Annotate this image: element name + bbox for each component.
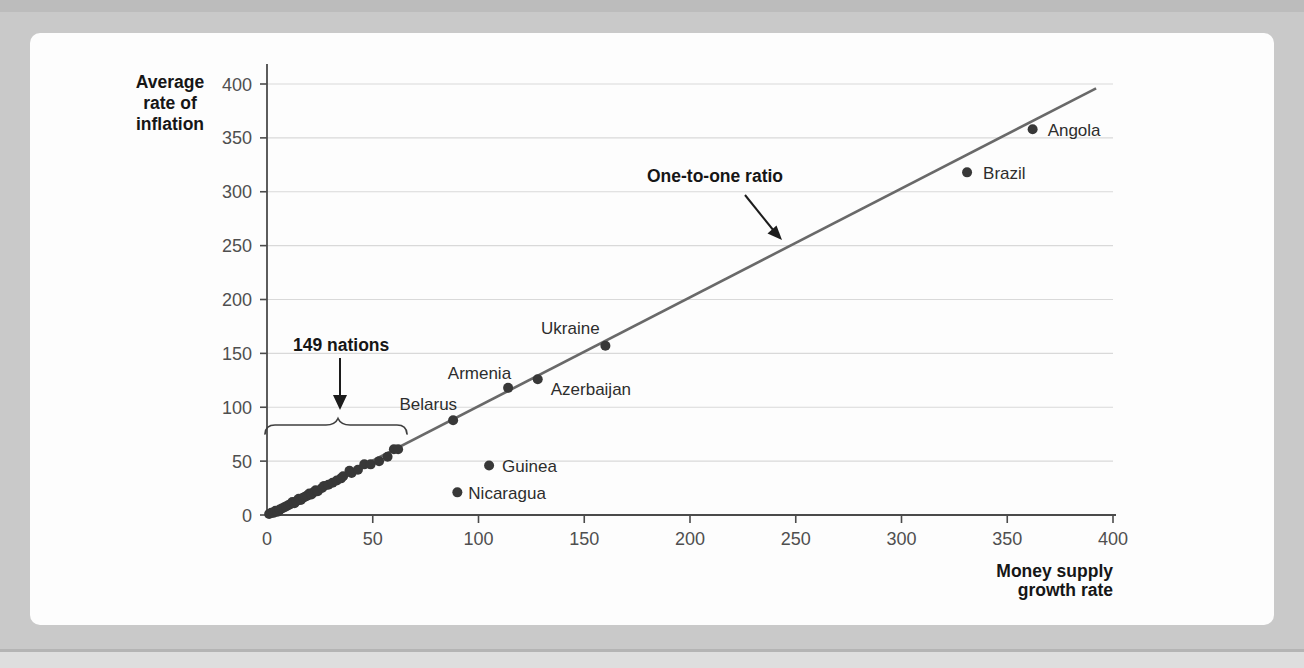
- cluster-point: [393, 444, 403, 454]
- y-tick-label: 350: [222, 128, 252, 148]
- data-point-guinea: [484, 460, 494, 470]
- data-point-azerbaijan: [533, 374, 543, 384]
- x-tick-label: 150: [569, 529, 599, 549]
- cluster-point: [374, 456, 384, 466]
- data-point-brazil: [962, 167, 972, 177]
- y-tick-label: 150: [222, 344, 252, 364]
- x-tick-label: 350: [992, 529, 1022, 549]
- data-point-armenia: [503, 383, 513, 393]
- chart-card: Average rate of inflation Money supply g…: [30, 33, 1274, 625]
- y-tick-label: 50: [232, 452, 252, 472]
- y-tick-label: 200: [222, 290, 252, 310]
- point-label-angola: Angola: [1048, 121, 1101, 140]
- one-to-one-arrowhead: [768, 226, 783, 241]
- point-label-brazil: Brazil: [983, 164, 1026, 183]
- point-label-belarus: Belarus: [399, 395, 457, 414]
- scatter-plot: 0501001502002503003504000501001502002503…: [30, 33, 1274, 625]
- point-label-azerbaijan: Azerbaijan: [551, 380, 631, 399]
- y-tick-label: 0: [242, 506, 252, 526]
- page-top-strip: [0, 0, 1304, 12]
- y-tick-label: 250: [222, 236, 252, 256]
- point-label-armenia: Armenia: [448, 364, 512, 383]
- data-point-nicaragua: [452, 487, 462, 497]
- x-tick-label: 50: [363, 529, 383, 549]
- point-label-guinea: Guinea: [502, 457, 557, 476]
- y-tick-label: 400: [222, 75, 252, 95]
- y-tick-label: 100: [222, 398, 252, 418]
- data-point-belarus: [448, 415, 458, 425]
- x-tick-label: 400: [1098, 529, 1128, 549]
- x-tick-label: 200: [675, 529, 705, 549]
- page-bottom-strip: [0, 649, 1304, 668]
- x-tick-label: 100: [463, 529, 493, 549]
- x-tick-label: 250: [781, 529, 811, 549]
- data-point-ukraine: [600, 341, 610, 351]
- x-tick-label: 0: [262, 529, 272, 549]
- point-label-nicaragua: Nicaragua: [468, 484, 546, 503]
- y-tick-label: 300: [222, 182, 252, 202]
- x-tick-label: 300: [886, 529, 916, 549]
- data-point-angola: [1028, 124, 1038, 134]
- point-label-ukraine: Ukraine: [541, 319, 600, 338]
- cluster-brace: [265, 419, 407, 435]
- one-to-one-arrow: [745, 195, 774, 231]
